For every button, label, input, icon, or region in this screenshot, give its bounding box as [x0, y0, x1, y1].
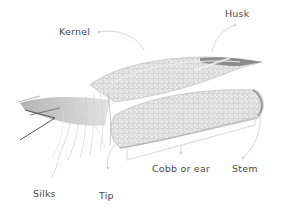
stem-label: Stem — [232, 163, 258, 174]
husk-leaves — [18, 96, 110, 140]
kernel-leader — [99, 31, 144, 50]
husk-leader — [212, 25, 235, 52]
silks-label: Silks — [33, 188, 56, 199]
tip-label: Tip — [99, 190, 114, 201]
silks-leader — [51, 162, 58, 178]
corn-diagram: Kernel Husk Silks Tip Cobb or ear Stem — [0, 0, 284, 213]
tip-leader — [107, 145, 115, 168]
cobb-label: Cobb or ear — [152, 163, 210, 174]
husk-label: Husk — [225, 8, 249, 19]
corn-illustration — [0, 0, 284, 213]
kernel-label: Kernel — [59, 26, 90, 37]
